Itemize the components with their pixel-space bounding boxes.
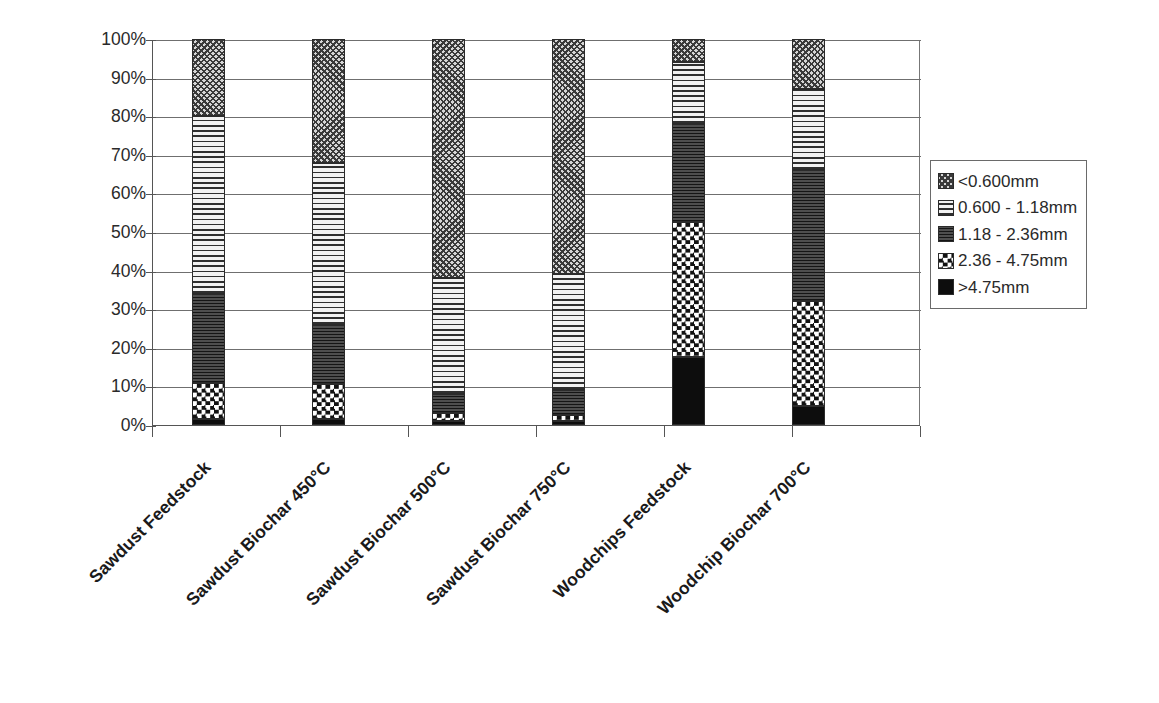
legend-items: <0.600mm0.600 - 1.18mm1.18 - 2.36mm2.36 …: [938, 168, 1077, 301]
y-axis-tick-mark: [146, 387, 156, 388]
y-axis-tick-label: 70%: [86, 147, 146, 165]
y-axis-tick-mark: [146, 40, 156, 41]
bar-segment[interactable]: [672, 62, 705, 124]
bar-column[interactable]: [192, 39, 225, 425]
legend-item[interactable]: >4.75mm: [938, 274, 1077, 301]
y-axis-tick-mark: [146, 79, 156, 80]
legend-item-label: 2.36 - 4.75mm: [958, 252, 1068, 269]
bar-segment[interactable]: [432, 39, 465, 278]
legend-item[interactable]: 0.600 - 1.18mm: [938, 195, 1077, 222]
y-axis-tick-mark: [146, 233, 156, 234]
bar-segment[interactable]: [552, 274, 585, 390]
bar-segment[interactable]: [192, 294, 225, 383]
bar-segment[interactable]: [672, 222, 705, 357]
x-axis-tick-mark: [152, 426, 153, 437]
legend-swatch-icon: [938, 200, 954, 216]
y-axis: 100%90%80%70%60%50%40%30%20%10%0%: [86, 0, 146, 703]
bar-column[interactable]: [432, 39, 465, 425]
bar-segment[interactable]: [792, 89, 825, 170]
bar-segment[interactable]: [672, 124, 705, 222]
x-axis-tick-mark: [280, 426, 281, 437]
y-axis-tick-label: 60%: [86, 185, 146, 203]
legend-item-label: 1.18 - 2.36mm: [958, 226, 1068, 243]
bar-segment[interactable]: [792, 301, 825, 405]
bar-segment[interactable]: [192, 116, 225, 294]
bar-segment[interactable]: [312, 419, 345, 425]
x-axis-category-label: Woodchip Biochar 700°C: [589, 459, 814, 684]
legend-swatch-icon: [938, 279, 954, 295]
y-axis-tick-label: 30%: [86, 301, 146, 319]
bar-segment[interactable]: [312, 384, 345, 419]
legend-item-label: >4.75mm: [958, 279, 1029, 296]
x-axis-tick-mark: [920, 426, 921, 437]
y-axis-tick-label: 50%: [86, 224, 146, 242]
bar-segment[interactable]: [552, 421, 585, 425]
legend: <0.600mm0.600 - 1.18mm1.18 - 2.36mm2.36 …: [930, 160, 1087, 309]
y-axis-tick-mark: [146, 156, 156, 157]
x-axis-category-label: Sawdust Biochar 500°C: [229, 459, 454, 684]
bar-segment[interactable]: [312, 163, 345, 325]
bar-segment[interactable]: [792, 39, 825, 89]
y-axis-tick-mark: [146, 349, 156, 350]
bar-segment[interactable]: [192, 419, 225, 425]
bar-segment[interactable]: [672, 357, 705, 425]
y-axis-tick-mark: [146, 272, 156, 273]
y-axis-tick-mark: [146, 310, 156, 311]
bar-segment[interactable]: [552, 39, 585, 274]
y-axis-tick-label: 90%: [86, 70, 146, 88]
bar-column[interactable]: [552, 39, 585, 425]
bar-segment[interactable]: [312, 325, 345, 385]
bar-segment[interactable]: [792, 406, 825, 425]
x-axis-tick-mark: [408, 426, 409, 437]
y-axis-tick-label: 0%: [86, 417, 146, 435]
legend-swatch-icon: [938, 173, 954, 189]
legend-item-label: 0.600 - 1.18mm: [958, 199, 1077, 216]
y-axis-tick-label: 40%: [86, 263, 146, 281]
legend-item[interactable]: 2.36 - 4.75mm: [938, 248, 1077, 275]
bar-segment[interactable]: [192, 383, 225, 420]
bar-column[interactable]: [672, 39, 705, 425]
y-axis-tick-mark: [146, 426, 156, 427]
bar-segment[interactable]: [792, 170, 825, 301]
y-axis-tick-label: 20%: [86, 340, 146, 358]
legend-item[interactable]: 1.18 - 2.36mm: [938, 221, 1077, 248]
y-axis-tick-mark: [146, 117, 156, 118]
y-axis-tick-label: 10%: [86, 378, 146, 396]
bar-segment[interactable]: [672, 39, 705, 62]
plot-area: [152, 40, 920, 426]
x-axis-category-label: Sawdust Biochar 750°C: [349, 459, 574, 684]
legend-swatch-icon: [938, 226, 954, 242]
bar-segment[interactable]: [432, 421, 465, 425]
bar-segment[interactable]: [432, 413, 465, 421]
bar-column[interactable]: [792, 39, 825, 425]
x-axis-tick-mark: [536, 426, 537, 437]
y-axis-tick-label: 100%: [86, 31, 146, 49]
bar-segment[interactable]: [312, 39, 345, 163]
bar-segment[interactable]: [432, 394, 465, 413]
y-axis-tick-label: 80%: [86, 108, 146, 126]
bar-segment[interactable]: [552, 415, 585, 421]
x-axis-tick-mark: [792, 426, 793, 437]
legend-swatch-icon: [938, 253, 954, 269]
bar-column[interactable]: [312, 39, 345, 425]
y-axis-tick-mark: [146, 194, 156, 195]
stacked-bar-chart: 100%90%80%70%60%50%40%30%20%10%0% Sawdus…: [0, 0, 1159, 703]
x-axis-category-label: Woodchips Feedstock: [469, 459, 694, 684]
legend-item-label: <0.600mm: [958, 173, 1039, 190]
bar-segment[interactable]: [432, 278, 465, 394]
bar-segment[interactable]: [552, 390, 585, 415]
bar-segment[interactable]: [192, 39, 225, 116]
legend-item[interactable]: <0.600mm: [938, 168, 1077, 195]
x-axis-tick-mark: [664, 426, 665, 437]
